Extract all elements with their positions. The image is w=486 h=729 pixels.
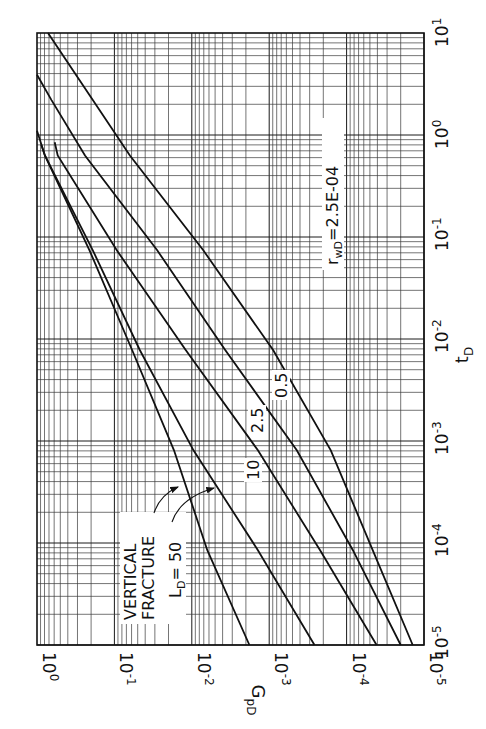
gpd-axis-title: GpD [244, 685, 269, 716]
gpd-tick-label: 10-4 [349, 652, 371, 686]
td-tick-label: 10-5 [430, 625, 452, 659]
td-tick-label: 100 [430, 120, 452, 149]
log-log-chart: 10010-110-210-310-410-5 10-510-410-310-2… [0, 0, 486, 729]
gpd-tick-label: 10-3 [271, 652, 293, 686]
curve-label-2-5: 2.5 [248, 408, 267, 433]
td-tick-label: 10-2 [430, 319, 452, 353]
td-axis-ticks: 10-510-410-310-210-1100101 [430, 18, 452, 659]
td-tick-label: 101 [430, 18, 452, 47]
gpd-axis-ticks: 10010-110-210-310-410-5 [39, 652, 448, 686]
td-tick-label: 10-3 [430, 421, 452, 455]
td-tick-label: 10-4 [430, 523, 452, 557]
curve-label-10: 10 [244, 460, 263, 480]
fracture-label: FRACTURE [139, 536, 158, 620]
gpd-tick-label: 10-1 [116, 652, 138, 686]
grid [37, 33, 424, 645]
gpd-tick-label: 100 [39, 652, 61, 681]
curve-label-0-5: 0.5 [272, 373, 291, 398]
vf-arrow [154, 487, 178, 513]
td-tick-label: 10-1 [430, 217, 452, 251]
vertical-label: VERTICAL [121, 543, 140, 620]
td-axis-title: tD [451, 347, 476, 363]
gpd-tick-label: 10-2 [194, 652, 216, 686]
ld50-label: LD= 50 [166, 542, 188, 598]
